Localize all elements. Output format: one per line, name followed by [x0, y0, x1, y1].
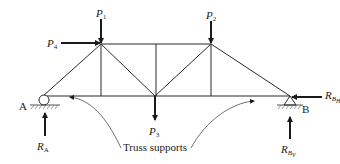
reaction-rbv-label: RBV: [280, 143, 297, 158]
support-a-roller: A: [19, 95, 60, 112]
ground-hatch-a: [31, 105, 58, 109]
load-p4: P4: [46, 37, 100, 51]
callout-leader-right: [191, 101, 254, 148]
load-p4-label: P4: [46, 37, 58, 51]
reaction-ra-label: RA: [36, 140, 49, 154]
load-p3-label: P3: [148, 125, 160, 139]
truss-members: [43, 44, 290, 96]
support-b-label: B: [302, 103, 309, 115]
callout-text: Truss supports: [123, 141, 187, 153]
reaction-rbh-label: RBH: [324, 89, 340, 104]
load-p1: P1: [95, 7, 107, 43]
ground-hatch-b: [278, 105, 301, 109]
truss-supports-callout: Truss supports: [70, 97, 254, 153]
reaction-rbv: RBV: [280, 117, 297, 158]
right-inner-diagonal: [155, 44, 211, 96]
left-end-diagonal: [43, 44, 101, 96]
support-b-pin: B: [277, 96, 309, 115]
right-end-diagonal: [211, 44, 290, 96]
callout-leader-left: [70, 97, 121, 148]
load-p1-label: P1: [95, 7, 107, 21]
reaction-rbh: RBH: [292, 89, 340, 104]
load-p3: P3: [148, 96, 160, 139]
reaction-ra: RA: [36, 113, 49, 154]
support-a-label: A: [19, 100, 27, 112]
roller-icon: [39, 95, 49, 105]
load-p2: P2: [205, 9, 217, 43]
load-p2-label: P2: [205, 9, 217, 23]
left-inner-diagonal: [101, 44, 155, 96]
truss-diagram: A B P1 P2 P4 P3 RA RBH: [0, 0, 340, 164]
